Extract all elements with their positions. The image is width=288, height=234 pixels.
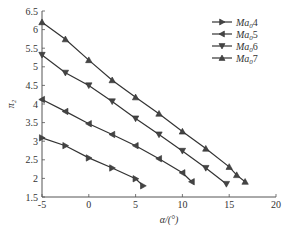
y-axis-label: π₂ bbox=[5, 99, 16, 108]
y-tick-label: 2.5 bbox=[26, 154, 39, 165]
x-tick-label: 15 bbox=[224, 199, 234, 210]
triangle-left-marker-icon bbox=[86, 121, 92, 127]
legend: Ma04Ma05Ma06Ma07 bbox=[212, 17, 258, 66]
y-tick-label: 2 bbox=[33, 173, 38, 184]
triangle-left-marker-icon bbox=[109, 131, 115, 137]
y-tick-label: 1.5 bbox=[26, 192, 39, 203]
legend-item-Ma06: Ma06 bbox=[212, 41, 258, 54]
triangle-right-marker-icon bbox=[63, 142, 69, 148]
y-tick-label: 3 bbox=[33, 136, 38, 147]
triangle-right-marker-icon bbox=[86, 155, 92, 161]
triangle-down-marker-icon bbox=[156, 132, 162, 138]
series-Ma07 bbox=[39, 19, 249, 184]
series-Ma05 bbox=[39, 96, 195, 185]
x-axis-label: α/(°) bbox=[160, 214, 179, 226]
triangle-up-marker-icon bbox=[156, 110, 162, 116]
y-tick-label: 3.5 bbox=[26, 117, 39, 128]
triangle-right-marker-icon bbox=[220, 19, 225, 25]
triangle-up-marker-icon bbox=[39, 19, 45, 25]
triangle-down-marker-icon bbox=[132, 116, 138, 122]
y-tick-label: 5 bbox=[33, 61, 38, 72]
legend-item-Ma05: Ma05 bbox=[212, 29, 258, 42]
legend-label: Ma07 bbox=[235, 53, 258, 66]
triangle-left-marker-icon bbox=[219, 31, 224, 37]
y-tick-label: 5.5 bbox=[26, 43, 39, 54]
legend-item-Ma07: Ma07 bbox=[212, 53, 258, 66]
triangle-down-marker-icon bbox=[223, 181, 229, 187]
series-line bbox=[42, 138, 143, 186]
y-tick-label: 6 bbox=[33, 24, 38, 35]
triangle-left-marker-icon bbox=[62, 108, 68, 114]
triangle-left-marker-icon bbox=[156, 155, 162, 161]
legend-item-Ma04: Ma04 bbox=[212, 17, 258, 30]
triangle-right-marker-icon bbox=[141, 183, 147, 189]
x-tick-label: 10 bbox=[177, 199, 187, 210]
x-tick-label: -5 bbox=[38, 199, 46, 210]
y-tick-label: 4.5 bbox=[26, 80, 39, 91]
triangle-right-marker-icon bbox=[110, 165, 116, 171]
y-tick-label: 4 bbox=[33, 99, 38, 110]
triangle-left-marker-icon bbox=[179, 170, 185, 176]
x-tick-label: 5 bbox=[133, 199, 138, 210]
triangle-down-marker-icon bbox=[86, 83, 92, 89]
chart-svg: 1.522.533.544.555.566.5-505101520α/(°)π₂… bbox=[0, 0, 288, 234]
y-tick-label: 6.5 bbox=[26, 6, 39, 17]
x-tick-label: 20 bbox=[271, 199, 281, 210]
x-tick-label: 0 bbox=[86, 199, 91, 210]
series-group bbox=[39, 19, 249, 189]
triangle-down-marker-icon bbox=[62, 70, 68, 76]
series-Ma06 bbox=[39, 52, 230, 187]
chart: 1.522.533.544.555.566.5-505101520α/(°)π₂… bbox=[0, 0, 288, 234]
triangle-left-marker-icon bbox=[132, 142, 138, 148]
